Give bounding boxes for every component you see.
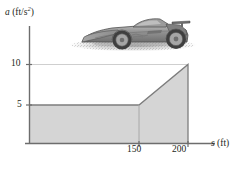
x-tick-label-150: 150 — [127, 145, 141, 155]
x-axis-unit: (ft) — [217, 138, 229, 148]
acceleration-position-figure: a (ft/s2) s (ft) 10 5 150 200 — [0, 0, 242, 171]
x-axis-label: s (ft) — [211, 139, 229, 149]
x-tick-label-200: 200 — [172, 145, 186, 155]
y-axis-unit: (ft/s — [12, 7, 27, 17]
y-axis-label: a (ft/s2) — [5, 8, 34, 18]
y-tick-label-10: 10 — [11, 59, 21, 69]
plot-area — [0, 0, 242, 171]
y-axis-unit-close: ) — [31, 7, 34, 17]
area-fill — [30, 65, 188, 144]
y-tick-label-5: 5 — [17, 100, 22, 110]
